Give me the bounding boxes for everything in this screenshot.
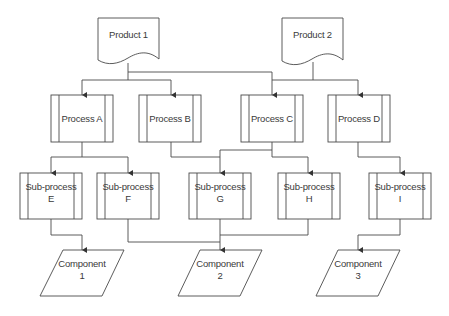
connectors <box>51 62 400 250</box>
subprocess-h-label: Sub-process H <box>278 173 340 213</box>
subprocess-e-label: Sub-process E <box>20 173 82 213</box>
product-2-label: Product 2 <box>282 24 343 46</box>
product-1-label: Product 1 <box>98 24 159 46</box>
process-d-label: Process D <box>328 95 390 142</box>
process-c-label: Process C <box>241 95 303 142</box>
process-b-label: Process B <box>139 95 201 142</box>
component-3-label: Component 3 <box>328 252 388 288</box>
component-2-label: Component 2 <box>190 252 250 288</box>
subprocess-g-label: Sub-process G <box>189 173 251 213</box>
subprocess-i-label: Sub-process I <box>369 173 431 213</box>
process-a-label: Process A <box>51 95 113 142</box>
component-1-label: Component 1 <box>52 252 112 288</box>
subprocess-f-label: Sub-process F <box>97 173 159 213</box>
